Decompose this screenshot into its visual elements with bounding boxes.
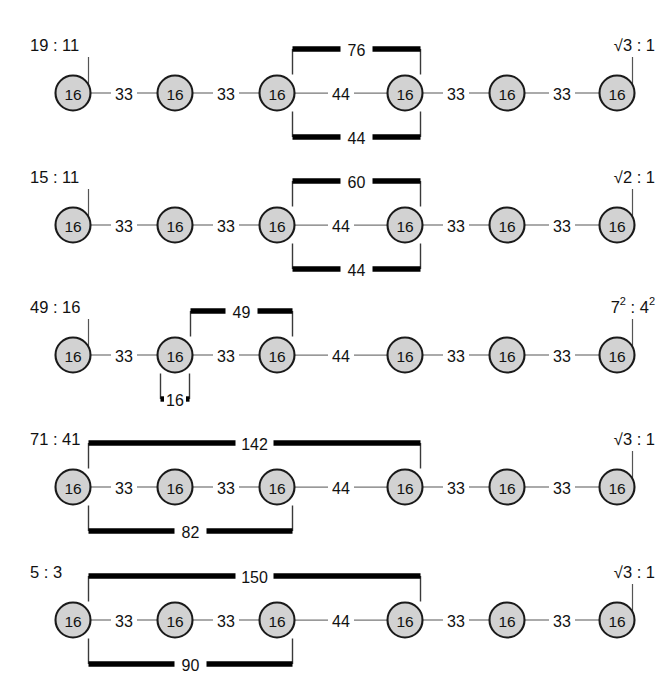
- row-ratio-left: 5 : 3: [30, 563, 62, 581]
- chain-node-label: 16: [608, 86, 625, 103]
- chain-node-label: 16: [396, 613, 413, 630]
- edge-label: 33: [447, 218, 465, 235]
- edge-label: 33: [553, 480, 571, 497]
- chain-node-label: 16: [498, 613, 515, 630]
- row-ratio-left: 15 : 11: [30, 168, 79, 186]
- edge-label: 33: [217, 348, 235, 365]
- bracket-label: 150: [241, 569, 268, 586]
- chain-row: 15 : 11√2 : 133334433336044161616161616: [30, 168, 655, 279]
- chain-node-label: 16: [498, 480, 515, 497]
- chain-node-label: 16: [396, 480, 413, 497]
- edge-label: 44: [332, 480, 350, 497]
- bracket-label: 76: [348, 42, 366, 59]
- edge-label: 44: [332, 86, 350, 103]
- bracket-label: 60: [348, 174, 366, 191]
- chain-node-label: 16: [64, 613, 81, 630]
- chain-node-label: 16: [608, 218, 625, 235]
- edge-label: 33: [447, 480, 465, 497]
- row-ratio-left: 71 : 41: [30, 430, 80, 448]
- chain-node-label: 16: [268, 348, 285, 365]
- row-ratio-right: 72 : 42: [611, 295, 655, 316]
- edge-label: 33: [115, 348, 133, 365]
- chain-node-label: 16: [166, 480, 183, 497]
- bracket-label: 90: [182, 657, 200, 674]
- chain-node-label: 16: [166, 218, 183, 235]
- edge-label: 33: [115, 86, 133, 103]
- bracket-label: 44: [348, 130, 366, 147]
- bracket-label: 82: [182, 524, 200, 541]
- edge-label: 44: [332, 348, 350, 365]
- chain-node-label: 16: [166, 613, 183, 630]
- chain-node-label: 16: [166, 348, 183, 365]
- edge-label: 44: [332, 218, 350, 235]
- diagram-root: 19 : 11√3 : 1333344333376441616161616161…: [0, 0, 672, 675]
- edge-label: 33: [553, 86, 571, 103]
- chain-node-label: 16: [608, 613, 625, 630]
- chain-node-label: 16: [64, 86, 81, 103]
- chain-node-label: 16: [608, 480, 625, 497]
- edge-label: 33: [447, 86, 465, 103]
- chain-node-label: 16: [396, 348, 413, 365]
- chain-node-label: 16: [268, 480, 285, 497]
- chain-node-label: 16: [64, 218, 81, 235]
- edge-label: 44: [332, 613, 350, 630]
- chain-node-label: 16: [166, 86, 183, 103]
- chain-node-label: 16: [268, 86, 285, 103]
- chain-node-label: 16: [64, 348, 81, 365]
- edge-label: 33: [553, 613, 571, 630]
- chain-row: 5 : 3√3 : 1333344333315090161616161616: [30, 563, 655, 674]
- bracket-label: 16: [166, 392, 184, 409]
- row-ratio-right: √3 : 1: [614, 36, 655, 54]
- edge-label: 33: [115, 613, 133, 630]
- chain-row: 71 : 41√3 : 1333344333314282161616161616: [30, 430, 655, 541]
- edge-label: 33: [447, 348, 465, 365]
- row-ratio-left: 19 : 11: [30, 36, 79, 54]
- chain-node-label: 16: [64, 480, 81, 497]
- chain-node-label: 16: [396, 218, 413, 235]
- bracket-label: 44: [348, 262, 366, 279]
- edge-label: 33: [217, 86, 235, 103]
- chain-node-label: 16: [268, 613, 285, 630]
- diagram-canvas: 19 : 11√3 : 1333344333376441616161616161…: [0, 0, 672, 675]
- edge-label: 33: [217, 218, 235, 235]
- row-ratio-left: 49 : 16: [30, 298, 80, 316]
- edge-label: 33: [553, 218, 571, 235]
- edge-label: 33: [217, 613, 235, 630]
- chain-row: 19 : 11√3 : 133334433337644161616161616: [30, 36, 655, 147]
- bracket-label: 142: [241, 436, 268, 453]
- chain-node-label: 16: [498, 348, 515, 365]
- edge-label: 33: [553, 348, 571, 365]
- chain-node-label: 16: [498, 218, 515, 235]
- edge-label: 33: [447, 613, 465, 630]
- chain-node-label: 16: [268, 218, 285, 235]
- row-ratio-right: √3 : 1: [614, 563, 655, 581]
- row-ratio-right: √2 : 1: [614, 168, 655, 186]
- chain-node-label: 16: [396, 86, 413, 103]
- chain-node-label: 16: [608, 348, 625, 365]
- edge-label: 33: [217, 480, 235, 497]
- bracket-label: 49: [233, 304, 251, 321]
- edge-label: 33: [115, 480, 133, 497]
- edge-label: 33: [115, 218, 133, 235]
- row-ratio-right: √3 : 1: [614, 430, 655, 448]
- chain-row: 49 : 1672 : 4233334433334916161616161616: [30, 295, 655, 409]
- chain-node-label: 16: [498, 86, 515, 103]
